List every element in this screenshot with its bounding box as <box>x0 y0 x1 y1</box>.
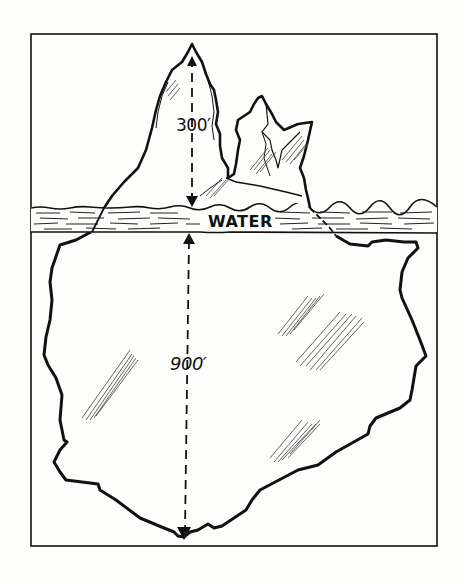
iceberg-underwater-outline <box>44 232 426 537</box>
iceberg-diagram: 300′ WATER 900′ <box>0 0 464 584</box>
above-water-height-label: 300′ <box>176 117 210 134</box>
below-water-depth-label: 900′ <box>170 355 206 373</box>
iceberg-illustration <box>0 0 464 584</box>
water-label: WATER <box>206 214 275 230</box>
